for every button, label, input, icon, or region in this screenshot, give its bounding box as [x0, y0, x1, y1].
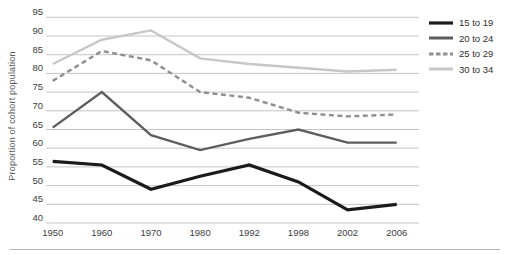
- x-tick-label: 2006: [386, 227, 407, 238]
- x-tick-label: 1960: [91, 227, 112, 238]
- y-tick-label: 80: [32, 62, 43, 73]
- y-tick-label: 40: [32, 212, 43, 223]
- y-tick-label: 60: [32, 137, 43, 148]
- legend-line-swatch: [428, 65, 454, 73]
- legend-item-15-19: 15 to 19: [428, 15, 493, 31]
- legend-item-25-29: 25 to 29: [428, 46, 493, 62]
- legend-line-swatch: [428, 50, 454, 58]
- y-tick-label: 85: [32, 44, 43, 55]
- x-tick-label: 1950: [42, 227, 63, 238]
- y-tick-label: 90: [32, 25, 43, 36]
- legend-item-20-24: 20 to 24: [428, 31, 493, 47]
- y-tick-label: 75: [32, 81, 43, 92]
- y-tick-label: 95: [32, 6, 43, 17]
- legend-label: 30 to 34: [459, 64, 493, 75]
- legend-label: 15 to 19: [459, 17, 493, 28]
- legend: 15 to 19 20 to 24 25 to 29 30 to 34: [428, 15, 493, 77]
- y-tick-label: 65: [32, 119, 43, 130]
- y-tick-label: 45: [32, 193, 43, 204]
- x-tick-label: 1970: [140, 227, 161, 238]
- x-tick-label: 1980: [190, 227, 211, 238]
- legend-line-swatch: [428, 19, 454, 27]
- series-line-20-to-24: [53, 92, 397, 150]
- legend-label: 25 to 29: [459, 48, 493, 59]
- y-tick-label: 50: [32, 175, 43, 186]
- y-tick-label: 55: [32, 156, 43, 167]
- x-tick-label: 1998: [288, 227, 309, 238]
- legend-item-30-34: 30 to 34: [428, 62, 493, 78]
- x-tick-label: 2002: [337, 227, 358, 238]
- y-tick-label: 70: [32, 100, 43, 111]
- x-tick-label: 1992: [239, 227, 260, 238]
- legend-label: 20 to 24: [459, 33, 493, 44]
- legend-line-swatch: [428, 34, 454, 42]
- cohort-line-chart: Proportion of cohort population 95908580…: [0, 0, 507, 255]
